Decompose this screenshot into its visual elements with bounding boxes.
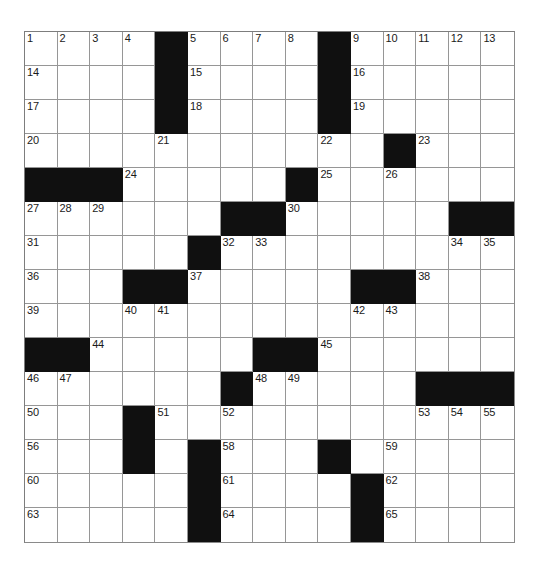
crossword-cell[interactable] <box>90 100 123 134</box>
crossword-cell[interactable] <box>253 440 286 474</box>
crossword-cell[interactable] <box>351 134 384 168</box>
crossword-cell[interactable] <box>481 66 514 100</box>
crossword-cell[interactable] <box>351 168 384 202</box>
crossword-cell[interactable] <box>481 270 514 304</box>
crossword-cell[interactable] <box>155 440 188 474</box>
crossword-cell[interactable]: 21 <box>155 134 188 168</box>
crossword-cell[interactable] <box>188 372 221 406</box>
crossword-cell[interactable] <box>221 338 254 372</box>
crossword-cell[interactable] <box>481 474 514 508</box>
crossword-cell[interactable] <box>384 236 417 270</box>
crossword-cell[interactable]: 65 <box>384 508 417 542</box>
crossword-cell[interactable]: 51 <box>155 406 188 440</box>
crossword-cell[interactable] <box>221 304 254 338</box>
crossword-cell[interactable] <box>58 66 91 100</box>
crossword-cell[interactable] <box>384 202 417 236</box>
crossword-cell[interactable]: 6 <box>221 32 254 66</box>
crossword-cell[interactable] <box>384 100 417 134</box>
crossword-cell[interactable]: 15 <box>188 66 221 100</box>
crossword-cell[interactable] <box>481 304 514 338</box>
crossword-cell[interactable]: 17 <box>25 100 58 134</box>
crossword-cell[interactable] <box>286 508 319 542</box>
crossword-cell[interactable]: 1 <box>25 32 58 66</box>
crossword-cell[interactable]: 33 <box>253 236 286 270</box>
crossword-cell[interactable] <box>416 66 449 100</box>
crossword-cell[interactable] <box>286 134 319 168</box>
crossword-cell[interactable] <box>384 406 417 440</box>
crossword-cell[interactable]: 4 <box>123 32 156 66</box>
crossword-cell[interactable] <box>481 508 514 542</box>
crossword-cell[interactable] <box>90 304 123 338</box>
crossword-cell[interactable] <box>384 372 417 406</box>
crossword-cell[interactable]: 50 <box>25 406 58 440</box>
crossword-cell[interactable]: 29 <box>90 202 123 236</box>
crossword-cell[interactable] <box>416 100 449 134</box>
crossword-cell[interactable]: 53 <box>416 406 449 440</box>
crossword-cell[interactable] <box>90 236 123 270</box>
crossword-cell[interactable] <box>58 236 91 270</box>
crossword-cell[interactable]: 28 <box>58 202 91 236</box>
crossword-cell[interactable]: 39 <box>25 304 58 338</box>
crossword-cell[interactable] <box>221 100 254 134</box>
crossword-cell[interactable]: 34 <box>449 236 482 270</box>
crossword-cell[interactable]: 45 <box>318 338 351 372</box>
crossword-cell[interactable]: 11 <box>416 32 449 66</box>
crossword-cell[interactable] <box>416 236 449 270</box>
crossword-cell[interactable] <box>449 508 482 542</box>
crossword-cell[interactable] <box>481 100 514 134</box>
crossword-cell[interactable] <box>58 440 91 474</box>
crossword-cell[interactable]: 22 <box>318 134 351 168</box>
crossword-cell[interactable]: 52 <box>221 406 254 440</box>
crossword-cell[interactable] <box>221 168 254 202</box>
crossword-cell[interactable] <box>90 270 123 304</box>
crossword-cell[interactable]: 60 <box>25 474 58 508</box>
crossword-cell[interactable]: 2 <box>58 32 91 66</box>
crossword-cell[interactable]: 37 <box>188 270 221 304</box>
crossword-cell[interactable]: 18 <box>188 100 221 134</box>
crossword-cell[interactable] <box>188 202 221 236</box>
crossword-cell[interactable] <box>286 236 319 270</box>
crossword-cell[interactable] <box>155 236 188 270</box>
crossword-cell[interactable] <box>221 66 254 100</box>
crossword-cell[interactable] <box>123 202 156 236</box>
crossword-cell[interactable] <box>286 270 319 304</box>
crossword-cell[interactable]: 35 <box>481 236 514 270</box>
crossword-cell[interactable]: 14 <box>25 66 58 100</box>
crossword-cell[interactable] <box>318 236 351 270</box>
crossword-cell[interactable] <box>221 270 254 304</box>
crossword-cell[interactable] <box>253 134 286 168</box>
crossword-cell[interactable]: 24 <box>123 168 156 202</box>
crossword-cell[interactable] <box>286 304 319 338</box>
crossword-cell[interactable] <box>318 202 351 236</box>
crossword-cell[interactable]: 63 <box>25 508 58 542</box>
crossword-cell[interactable]: 20 <box>25 134 58 168</box>
crossword-cell[interactable] <box>90 66 123 100</box>
crossword-cell[interactable] <box>155 338 188 372</box>
crossword-cell[interactable] <box>253 66 286 100</box>
crossword-cell[interactable] <box>449 440 482 474</box>
crossword-cell[interactable] <box>416 474 449 508</box>
crossword-cell[interactable] <box>286 474 319 508</box>
crossword-cell[interactable] <box>58 406 91 440</box>
crossword-cell[interactable] <box>351 372 384 406</box>
crossword-cell[interactable]: 55 <box>481 406 514 440</box>
crossword-cell[interactable]: 3 <box>90 32 123 66</box>
crossword-cell[interactable]: 5 <box>188 32 221 66</box>
crossword-cell[interactable] <box>123 134 156 168</box>
crossword-cell[interactable] <box>481 168 514 202</box>
crossword-cell[interactable] <box>58 100 91 134</box>
crossword-cell[interactable]: 58 <box>221 440 254 474</box>
crossword-cell[interactable] <box>286 440 319 474</box>
crossword-cell[interactable] <box>416 440 449 474</box>
crossword-cell[interactable] <box>58 474 91 508</box>
crossword-cell[interactable] <box>90 440 123 474</box>
crossword-cell[interactable] <box>155 508 188 542</box>
crossword-cell[interactable]: 46 <box>25 372 58 406</box>
crossword-cell[interactable]: 13 <box>481 32 514 66</box>
crossword-cell[interactable] <box>188 338 221 372</box>
crossword-cell[interactable] <box>253 508 286 542</box>
crossword-cell[interactable]: 48 <box>253 372 286 406</box>
crossword-cell[interactable] <box>253 474 286 508</box>
crossword-cell[interactable] <box>449 474 482 508</box>
crossword-cell[interactable] <box>253 100 286 134</box>
